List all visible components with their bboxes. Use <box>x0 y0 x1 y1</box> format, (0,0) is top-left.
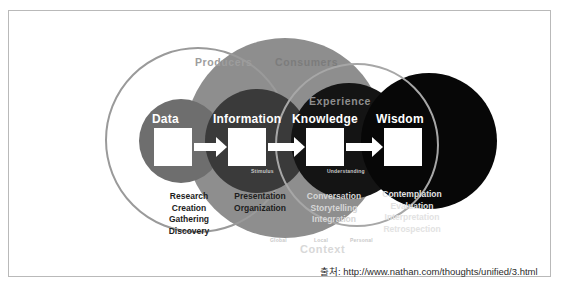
label-global: Global <box>270 237 287 243</box>
label-experience: Experience <box>309 95 371 107</box>
word-item: Organization <box>219 203 301 215</box>
flow-box-wisdom <box>384 128 422 166</box>
label-understanding: Understanding <box>327 168 365 174</box>
word-item: Integration <box>295 214 373 226</box>
flow-box-data <box>154 128 192 166</box>
flow-arrowhead-2 <box>294 137 305 157</box>
label-consumers: Consumers <box>275 56 338 68</box>
word-item: Contemplation <box>365 189 459 201</box>
word-item: Conversation <box>295 191 373 203</box>
word-list-data: ResearchCreationGatheringDiscovery <box>153 191 225 237</box>
stage-label-data: Data <box>152 112 179 126</box>
flow-box-information <box>228 128 266 166</box>
word-item: Storytelling <box>295 203 373 215</box>
word-list-information: PresentationOrganization <box>219 191 301 214</box>
word-item: Discovery <box>153 226 225 238</box>
word-item: Research <box>153 191 225 203</box>
label-stimulus: Stimulus <box>251 168 274 174</box>
label-producers: Producers <box>195 56 252 68</box>
flow-box-knowledge <box>306 128 344 166</box>
stage-label-wisdom: Wisdom <box>376 112 424 126</box>
word-item: Presentation <box>219 191 301 203</box>
word-item: Evaluation <box>365 201 459 213</box>
word-list-wisdom: ContemplationEvaluationInterpretationRet… <box>365 189 459 235</box>
word-item: Gathering <box>153 214 225 226</box>
word-item: Retrospection <box>365 224 459 236</box>
flow-arrowhead-1 <box>216 137 227 157</box>
word-item: Interpretation <box>365 212 459 224</box>
label-context: Context <box>300 243 345 255</box>
screenshot-root: Producers Consumers Experience Context D… <box>0 0 562 290</box>
label-local: Local <box>314 237 328 243</box>
flow-arrowhead-3 <box>372 137 383 157</box>
label-personal: Personal <box>350 237 373 243</box>
source-caption: 출처: http://www.nathan.com/thoughts/unifi… <box>320 264 538 278</box>
stage-label-information: Information <box>213 112 281 126</box>
word-item: Creation <box>153 203 225 215</box>
word-list-knowledge: ConversationStorytellingIntegration <box>295 191 373 226</box>
diagram-canvas: Producers Consumers Experience Context D… <box>9 11 552 278</box>
stage-label-knowledge: Knowledge <box>292 112 358 126</box>
image-frame: Producers Consumers Experience Context D… <box>8 10 551 277</box>
